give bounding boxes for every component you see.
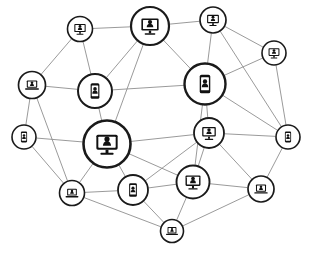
phone-node-upper-left-center[interactable] <box>78 74 112 108</box>
laptop-node-upper-left-edge[interactable] <box>19 72 46 99</box>
node-layer <box>12 7 300 243</box>
monitor-node-top-right[interactable] <box>200 7 226 33</box>
network-edge <box>36 138 83 142</box>
phone-node-lower-center-left[interactable] <box>118 175 148 205</box>
phone-node-upper-center-right[interactable] <box>185 64 226 105</box>
monitor-node-top-center[interactable] <box>131 7 169 45</box>
laptop-node-bottom[interactable] <box>161 220 184 243</box>
network-edge <box>80 164 93 183</box>
network-edge <box>177 198 187 220</box>
laptop-icon <box>254 185 267 194</box>
network-edge <box>41 39 71 75</box>
network-edge <box>169 21 199 24</box>
network-edge <box>32 146 63 183</box>
network-edge <box>144 201 164 222</box>
network-canvas <box>0 0 310 254</box>
network-edge <box>119 165 126 177</box>
network-edge <box>223 95 278 130</box>
network-edge <box>207 105 208 118</box>
phone-icon <box>129 183 137 197</box>
laptop-icon <box>66 189 79 198</box>
network-diagram <box>0 0 310 254</box>
monitor-node-center-hub[interactable] <box>84 121 131 168</box>
network-edge <box>276 65 286 124</box>
laptop-node-lower-right[interactable] <box>248 176 274 202</box>
network-edge <box>83 42 91 74</box>
network-edge <box>210 184 248 188</box>
network-edge <box>225 26 263 47</box>
network-edge <box>163 40 190 69</box>
network-edge <box>224 134 275 137</box>
phone-node-right-edge[interactable] <box>276 125 300 149</box>
phone-icon <box>91 83 100 98</box>
phone-icon <box>21 132 27 143</box>
network-edge <box>93 27 131 29</box>
network-edge <box>198 148 204 166</box>
monitor-node-top-left[interactable] <box>68 17 93 42</box>
network-edge <box>37 98 68 181</box>
network-edge <box>208 33 212 63</box>
network-edge <box>220 144 252 179</box>
laptop-icon <box>25 80 39 89</box>
network-edge <box>99 108 102 121</box>
phone-node-left-edge[interactable] <box>12 125 36 149</box>
monitor-node-upper-right-edge[interactable] <box>262 41 286 65</box>
phone-icon <box>285 132 291 143</box>
phone-icon <box>200 75 211 94</box>
laptop-node-lower-left[interactable] <box>60 181 85 206</box>
network-edge <box>85 191 118 193</box>
laptop-icon <box>166 227 178 235</box>
network-edge <box>26 99 30 125</box>
monitor-node-center-right[interactable] <box>194 118 224 148</box>
network-edge <box>112 85 184 90</box>
network-edge <box>267 148 282 177</box>
network-edge <box>84 198 161 227</box>
network-edge <box>46 86 78 89</box>
monitor-node-lower-center[interactable] <box>177 166 210 199</box>
network-edge <box>131 135 194 142</box>
network-edge <box>115 44 143 121</box>
network-edge <box>129 154 178 175</box>
network-edge <box>148 184 176 188</box>
